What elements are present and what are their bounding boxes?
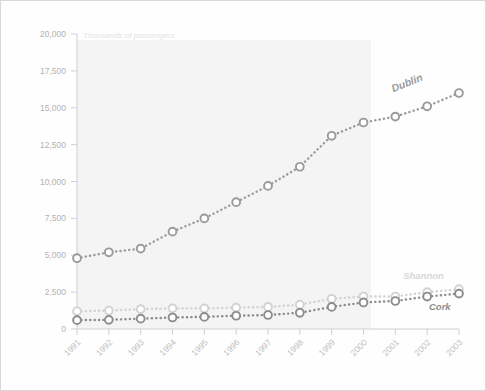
x-axis-tick-label: 1994 xyxy=(157,337,178,358)
x-axis-tick-label: 2002 xyxy=(412,337,433,358)
data-point-marker[interactable] xyxy=(105,307,113,315)
series-label-cork: Cork xyxy=(429,301,451,312)
data-point-marker[interactable] xyxy=(423,293,431,301)
data-point-marker[interactable] xyxy=(232,198,240,206)
data-point-marker[interactable] xyxy=(391,297,399,305)
data-point-marker[interactable] xyxy=(232,304,240,312)
x-axis-tick-label: 1996 xyxy=(221,337,242,358)
x-axis-tick-label: 1998 xyxy=(285,337,306,358)
y-axis-tick-label: 7,500 xyxy=(45,213,67,223)
data-point-marker[interactable] xyxy=(328,303,336,311)
y-axis-tick-label: 17,500 xyxy=(40,66,66,76)
data-point-marker[interactable] xyxy=(264,311,272,319)
series-label-dublin: Dublin xyxy=(389,71,424,94)
chart-subtitle: Thousands of passengers xyxy=(83,31,175,40)
x-axis-tick-label: 1991 xyxy=(62,337,83,358)
data-point-marker[interactable] xyxy=(105,316,113,324)
y-axis-tick-label: 2,500 xyxy=(45,287,67,297)
data-point-marker[interactable] xyxy=(169,228,177,236)
data-point-marker[interactable] xyxy=(328,132,336,140)
data-point-marker[interactable] xyxy=(264,303,272,311)
x-axis-tick-label: 1993 xyxy=(126,337,147,358)
data-point-marker[interactable] xyxy=(73,254,81,262)
y-axis-tick-label: 12,500 xyxy=(40,140,66,150)
chart-canvas: 02,5005,0007,50010,00012,50015,00017,500… xyxy=(1,1,486,391)
x-axis-tick-label: 2003 xyxy=(444,337,465,358)
data-point-marker[interactable] xyxy=(264,182,272,190)
data-point-marker[interactable] xyxy=(169,314,177,322)
x-axis-tick-label: 1995 xyxy=(189,337,210,358)
data-point-marker[interactable] xyxy=(200,304,208,312)
data-point-marker[interactable] xyxy=(137,305,145,313)
data-point-marker[interactable] xyxy=(360,299,368,307)
data-point-marker[interactable] xyxy=(200,313,208,321)
plot-area-background xyxy=(77,40,371,329)
data-point-marker[interactable] xyxy=(232,312,240,320)
passenger-traffic-line-chart: 02,5005,0007,50010,00012,50015,00017,500… xyxy=(1,1,486,391)
x-axis-tick-label: 2001 xyxy=(380,337,401,358)
data-point-marker[interactable] xyxy=(391,113,399,121)
y-axis-tick-label: 15,000 xyxy=(40,103,66,113)
x-axis-tick-label: 2000 xyxy=(348,337,369,358)
data-point-marker[interactable] xyxy=(296,309,304,317)
y-axis-tick-label: 10,000 xyxy=(40,177,66,187)
data-point-marker[interactable] xyxy=(200,214,208,222)
data-point-marker[interactable] xyxy=(73,316,81,324)
y-axis-tick-label: 5,000 xyxy=(45,250,67,260)
data-point-marker[interactable] xyxy=(455,89,463,97)
data-point-marker[interactable] xyxy=(360,119,368,127)
chart-frame: 02,5005,0007,50010,00012,50015,00017,500… xyxy=(0,0,486,391)
series-label-shannon: Shannon xyxy=(403,270,444,281)
data-point-marker[interactable] xyxy=(423,102,431,110)
x-axis-tick-label: 1999 xyxy=(317,337,338,358)
data-point-marker[interactable] xyxy=(328,295,336,303)
y-axis-tick-label: 20,000 xyxy=(40,29,66,39)
data-point-marker[interactable] xyxy=(73,307,81,315)
data-point-marker[interactable] xyxy=(137,315,145,323)
data-point-marker[interactable] xyxy=(169,304,177,312)
data-point-marker[interactable] xyxy=(105,248,113,256)
y-axis-tick-label: 0 xyxy=(61,324,66,334)
data-point-marker[interactable] xyxy=(455,290,463,298)
x-axis-tick-label: 1992 xyxy=(94,337,115,358)
x-axis-tick-label: 1997 xyxy=(253,337,274,358)
data-point-marker[interactable] xyxy=(296,301,304,309)
data-point-marker[interactable] xyxy=(137,245,145,253)
data-point-marker[interactable] xyxy=(296,163,304,171)
